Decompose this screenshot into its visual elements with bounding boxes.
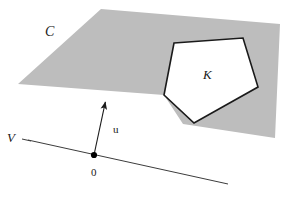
subspace-line-v — [28, 140, 228, 184]
label-v: V — [7, 130, 17, 145]
label-c: C — [45, 24, 55, 39]
vector-u-arrow — [94, 102, 105, 155]
label-k: K — [202, 67, 213, 82]
label-origin: 0 — [91, 166, 97, 178]
origin-point-dot — [91, 152, 97, 158]
label-u: u — [113, 123, 119, 135]
diagram-svg: C K u V 0 — [0, 0, 287, 198]
figure-canvas: C K u V 0 — [0, 0, 287, 198]
